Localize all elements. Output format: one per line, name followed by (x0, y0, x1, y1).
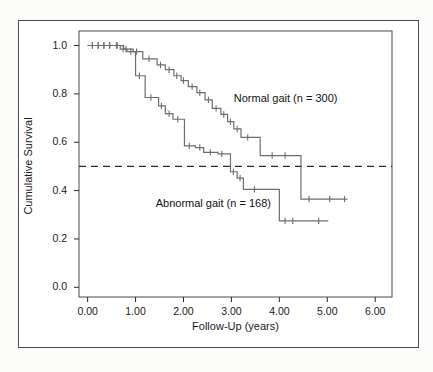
x-axis-tick-label: 3.00 (209, 305, 253, 317)
plot-frame (79, 31, 392, 297)
x-axis-tick-label: 2.00 (161, 305, 205, 317)
x-axis-tick-label: 4.00 (257, 305, 301, 317)
y-axis-tick-label: 1.0 (23, 39, 67, 51)
y-axis-tick-label: 0.8 (23, 87, 67, 99)
series-annotation-normal-gait: Normal gait (n = 300) (234, 92, 338, 104)
y-axis-tick-label: 0.4 (23, 184, 67, 196)
y-axis-tick-label: 0.2 (23, 232, 67, 244)
x-axis-tick-label: 5.00 (305, 305, 349, 317)
x-axis-tick-label: 6.00 (353, 305, 397, 317)
y-axis-tick-label: 0.6 (23, 135, 67, 147)
series-annotation-abnormal-gait: Abnormal gait (n = 168) (156, 197, 271, 209)
x-axis-tick-label: 0.00 (66, 305, 110, 317)
x-axis-tick-label: 1.00 (114, 305, 158, 317)
y-axis-title: Cumulative Survival (22, 76, 34, 256)
page-caption-smudge (10, 356, 430, 368)
x-axis-title: Follow-Up (years) (79, 320, 392, 332)
y-axis-tick-label: 0.0 (23, 280, 67, 292)
